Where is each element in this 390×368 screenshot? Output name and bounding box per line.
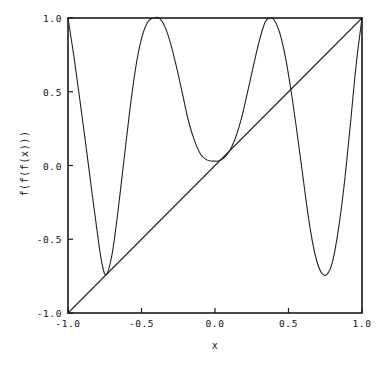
y-tick-label: 0.5 <box>22 86 62 97</box>
chart-figure: 1.0 0.5 0.0 -0.5 -1.0 -1.0 -0.5 0.0 0.5 … <box>0 0 390 368</box>
y-axis-label: f(f(f(x))) <box>19 124 30 204</box>
x-tick-label: 0.5 <box>279 318 298 329</box>
x-tick-label: -1.0 <box>55 318 80 329</box>
x-tick-label: 1.0 <box>353 318 372 329</box>
y-tick-label: 1.0 <box>22 13 62 24</box>
x-tick-label: -0.5 <box>129 318 154 329</box>
y-tick-label: -0.5 <box>22 234 62 245</box>
x-tick-label: 0.0 <box>206 318 225 329</box>
y-tick-label: -1.0 <box>22 308 62 319</box>
x-axis-label: x <box>212 340 219 351</box>
